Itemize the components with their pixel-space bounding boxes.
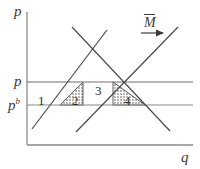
supply-curve-left xyxy=(32,30,107,129)
price-label-p: p xyxy=(14,74,22,89)
price-label-pb-base: p xyxy=(8,97,16,113)
demand-curve xyxy=(72,27,170,131)
price-label-pb-superscript: b xyxy=(16,96,21,106)
price-label-pb: pb xyxy=(8,97,20,113)
supply-curve-right xyxy=(76,27,178,132)
region-label-3: 3 xyxy=(95,84,102,97)
region-label-1: 1 xyxy=(38,94,45,107)
economics-diagram-figure: p p pb q M 1 2 3 4 xyxy=(0,0,200,169)
region-label-4: 4 xyxy=(124,94,131,107)
x-axis-label: q xyxy=(181,150,189,165)
region-label-2: 2 xyxy=(72,94,79,107)
y-axis-label: p xyxy=(14,4,22,19)
money-supply-label: M xyxy=(144,14,156,30)
money-supply-letter: M xyxy=(144,15,156,30)
